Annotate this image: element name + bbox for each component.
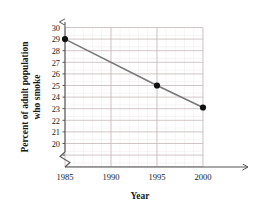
y-tick-label: 30 [52,24,60,33]
y-axis-title: Percent of adult population who smoke [20,41,42,153]
y-tick-label: 25 [52,82,60,91]
y-tick-label: 27 [52,59,60,68]
chart-canvas: 30 29 28 27 26 25 24 23 22 21 20 1985 19… [0,0,266,210]
x-axis-title: Year [131,191,151,201]
x-tick-label: 2000 [194,172,211,182]
y-tick-label: 28 [52,47,60,56]
y-tick-label: 22 [52,117,60,126]
y-tick-label: 29 [52,35,60,44]
y-tick-label: 24 [52,93,61,102]
x-tick-label: 1995 [148,172,165,182]
y-tick-label: 21 [52,128,60,137]
y-tick-label: 23 [52,105,60,114]
y-tick-label: 20 [52,140,60,149]
y-axis-title-line-2: who smoke [32,74,42,119]
smoking-trend-line-chart: 30 29 28 27 26 25 24 23 22 21 20 1985 19… [0,0,266,210]
data-point-2000 [200,104,206,110]
x-tick-labels: 1985 1990 1995 2000 [56,172,211,182]
y-tick-label: 26 [52,70,60,79]
y-axis-title-line-1: Percent of adult population [20,41,30,153]
y-tick-labels: 30 29 28 27 26 25 24 23 22 21 20 [52,24,61,149]
x-tick-label: 1985 [56,172,73,182]
data-point-1995 [154,82,160,88]
data-point-1985 [62,36,68,42]
x-tick-label: 1990 [102,172,119,182]
